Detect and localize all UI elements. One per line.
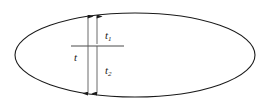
diagram-svg — [0, 0, 272, 109]
dimension-label-t2: t2 — [105, 65, 112, 76]
figure-canvas: t t1 t2 — [0, 0, 272, 109]
dimension-label-t1-subscript: 1 — [108, 35, 112, 43]
dimension-label-t: t — [74, 52, 77, 63]
dimension-label-t1: t1 — [105, 30, 112, 41]
ellipse-outline — [15, 13, 255, 97]
dimension-label-t2-subscript: 2 — [108, 70, 112, 78]
dimension-label-t-text: t — [74, 51, 77, 63]
